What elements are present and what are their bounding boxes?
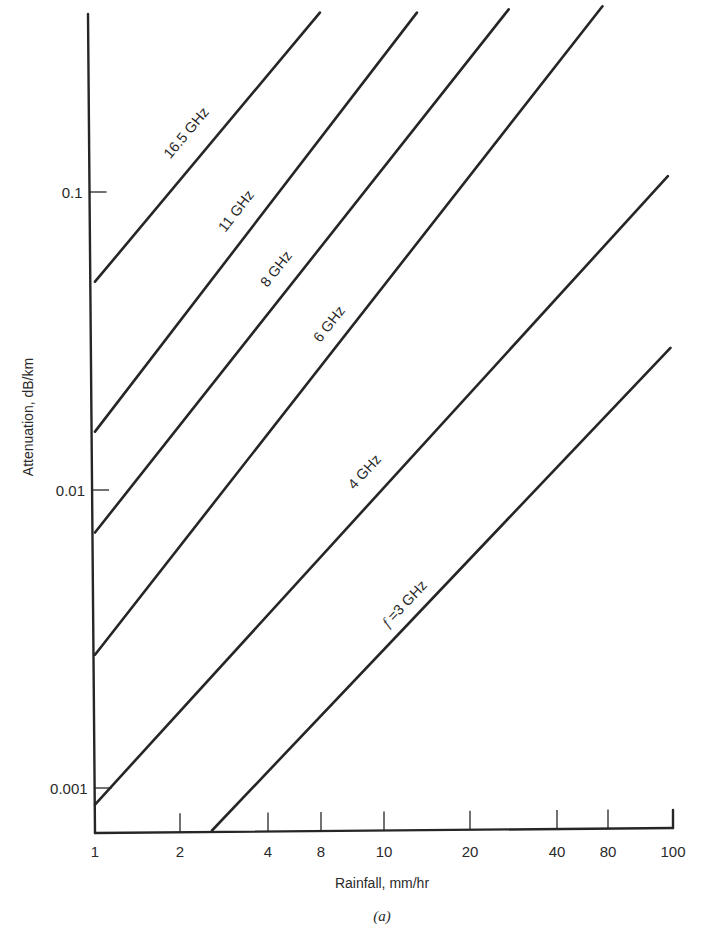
series-line-4-ghz	[95, 176, 668, 804]
y-axis	[88, 14, 95, 833]
x-tick-label: 40	[549, 843, 566, 860]
y-axis-ticks: 0.10.010.001	[50, 184, 112, 797]
x-axis-label: Rainfall, mm/hr	[335, 875, 429, 891]
x-tick-label: 4	[264, 843, 272, 860]
figure-caption: (a)	[373, 908, 391, 925]
series-line-3-ghz	[212, 348, 670, 831]
x-axis-ticks: 124810204080100	[91, 810, 686, 860]
x-tick-label: 8	[317, 843, 325, 860]
series-label: 8 GHz	[257, 248, 295, 290]
x-tick-label: 1	[91, 843, 99, 860]
series-labels: 16.5 GHz11 GHz8 GHz6 GHz4 GHzf =3 GHz	[160, 104, 430, 630]
y-tick-label: 0.1	[62, 184, 83, 201]
y-axis-label: Attenuation, dB/km	[20, 358, 36, 476]
series-line-16-5-ghz	[95, 13, 320, 282]
series-label: f =3 GHz	[379, 577, 430, 630]
x-tick-label: 10	[376, 843, 393, 860]
y-tick-label: 0.001	[50, 780, 88, 797]
x-tick-label: 80	[600, 843, 617, 860]
x-tick-label: 2	[176, 843, 184, 860]
y-tick-label: 0.01	[56, 482, 85, 499]
x-tick-label: 100	[660, 843, 685, 860]
series-line-8-ghz	[95, 9, 509, 532]
rain-attenuation-chart: 0.10.010.001 124810204080100 16.5 GHz11 …	[0, 0, 705, 939]
series-label: 4 GHz	[345, 451, 385, 492]
x-tick-label: 20	[462, 843, 479, 860]
